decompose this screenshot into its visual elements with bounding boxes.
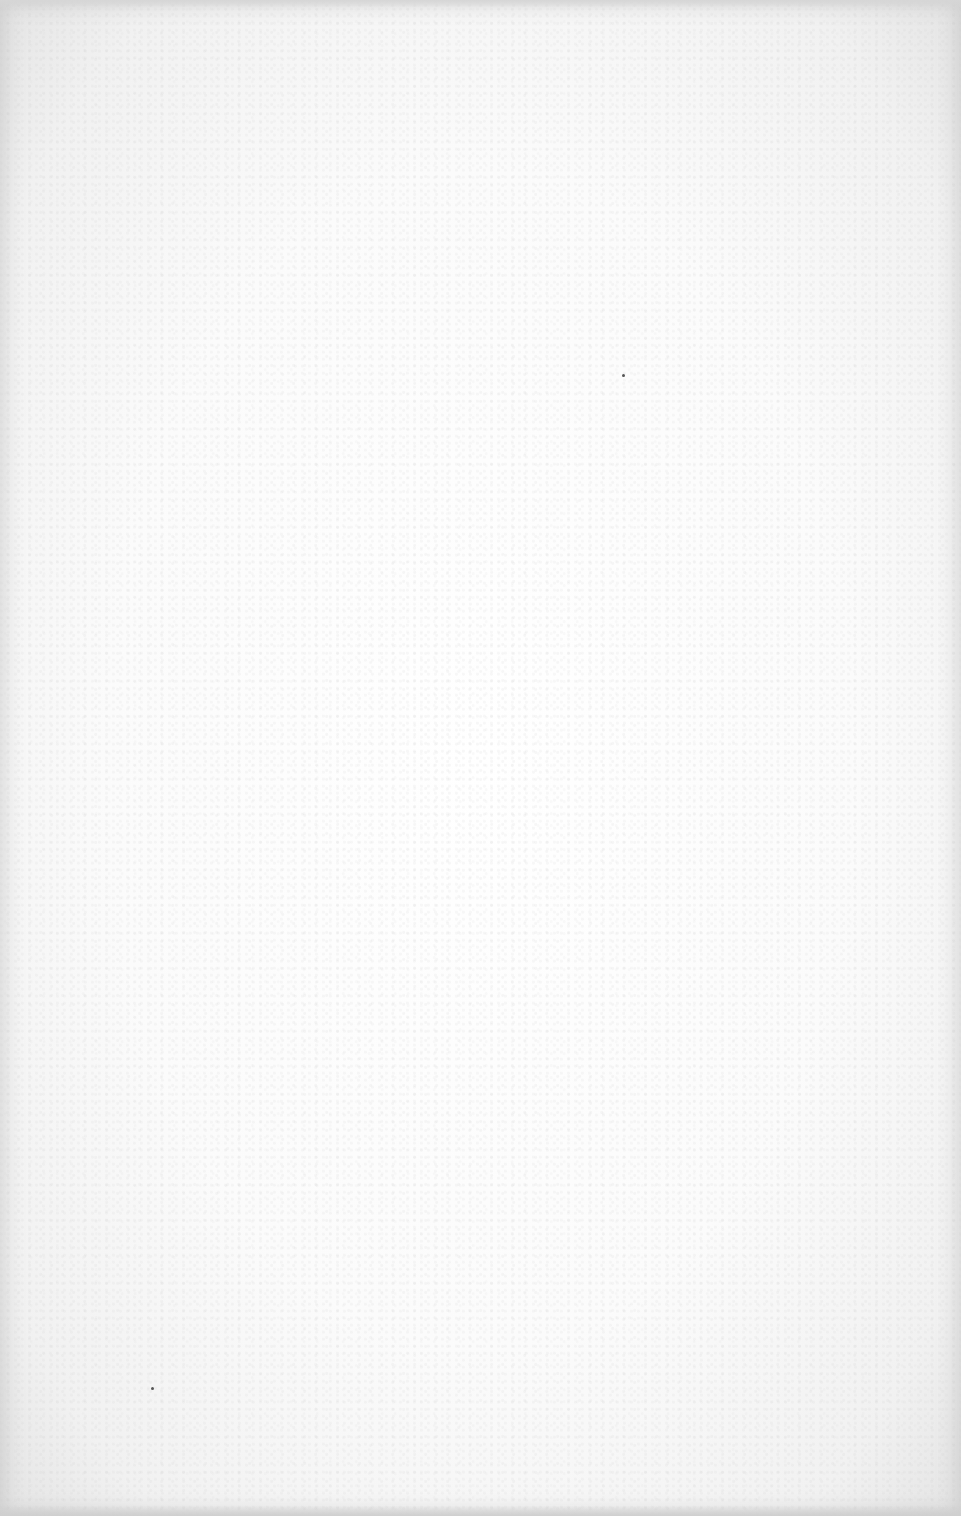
paper-texture: [0, 0, 961, 1516]
blank-page: [0, 0, 961, 1516]
page-top-edge: [0, 0, 961, 8]
page-bottom-edge: [0, 1506, 961, 1516]
scan-speck: [151, 1387, 154, 1390]
scan-speck: [622, 374, 625, 377]
